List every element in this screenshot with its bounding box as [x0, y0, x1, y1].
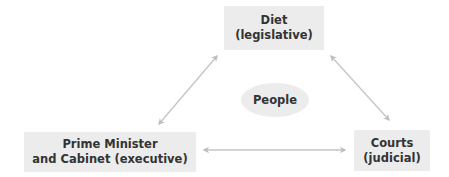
arrow-diet-courts — [331, 56, 389, 120]
node-diet-subtitle: (legislative) — [235, 28, 313, 43]
node-diet-title: Diet — [261, 13, 288, 28]
node-people: People — [241, 83, 309, 117]
node-diet: Diet (legislative) — [224, 6, 324, 50]
node-people-label: People — [253, 93, 297, 107]
node-prime-minister: Prime Minister and Cabinet (executive) — [24, 132, 196, 172]
node-courts: Courts (judicial) — [354, 130, 430, 171]
node-pm-title: Prime Minister — [62, 137, 157, 152]
node-pm-subtitle: and Cabinet (executive) — [32, 152, 187, 167]
node-courts-title: Courts — [371, 136, 414, 151]
arrow-diet-pm — [159, 56, 217, 124]
node-courts-subtitle: (judicial) — [363, 151, 420, 166]
